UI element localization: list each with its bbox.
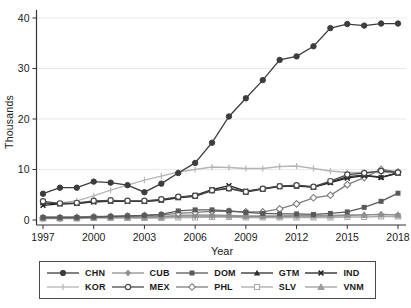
marker-square-filled [74,215,79,220]
marker-square-filled [396,191,401,196]
marker-square-filled [362,205,367,210]
marker-square-filled [379,199,384,204]
legend-label-SLV: SLV [279,282,296,292]
legend-label-GTM: GTM [279,268,300,278]
marker-circle-filled [192,160,197,165]
marker-circle-open [74,200,79,205]
marker-diamond-open [276,206,283,213]
marker-circle-open [362,170,367,175]
y-tick-label-30: 30 [18,62,30,74]
marker-circle-open [125,198,130,203]
marker-circle-filled [361,23,366,28]
marker-circle-filled [311,44,316,49]
marker-circle-filled [378,21,383,26]
marker-circle-filled [108,180,113,185]
marker-square-filled [243,210,248,215]
legend-label-VNM: VNM [343,282,364,292]
x-tick-label-2006: 2006 [183,231,207,243]
marker-diamond-filled [124,270,130,276]
y-tick-label-40: 40 [18,12,30,24]
marker-square-filled [345,209,350,214]
marker-circle-open [40,199,45,204]
marker-circle-filled [277,57,282,62]
marker-circle-filled [176,170,181,175]
legend-key-DOM [175,268,209,278]
marker-circle-filled [159,181,164,186]
series-line-CHN [43,24,398,194]
marker-circle-filled [60,270,65,275]
legend-item-CUB: CUB [111,268,176,278]
marker-circle-filled [345,21,350,26]
marker-circle-filled [74,185,79,190]
legend-item-VNM: VNM [304,282,369,292]
legend-item-CHN: CHN [46,268,111,278]
marker-circle-open [345,172,350,177]
marker-square-filled [311,212,316,217]
marker-square-filled [91,214,96,219]
y-tick-label-10: 10 [18,163,30,175]
marker-circle-filled [91,179,96,184]
marker-square-filled [190,271,195,276]
legend-label-DOM: DOM [214,268,236,278]
marker-circle-filled [125,182,130,187]
x-tick-label-1997: 1997 [31,231,55,243]
marker-circle-open [176,194,181,199]
marker-circle-open [159,197,164,202]
marker-square-filled [193,207,198,212]
legend-item-GTM: GTM [240,268,305,278]
marker-square-filled [159,212,164,217]
marker-circle-open [294,183,299,188]
legend-item-IND: IND [304,268,369,278]
legend-item-DOM: DOM [175,268,240,278]
marker-circle-filled [40,191,45,196]
marker-circle-filled [260,77,265,82]
x-tick-label-2009: 2009 [234,231,258,243]
marker-circle-filled [243,96,248,101]
marker-circle-open [125,284,130,289]
marker-square-filled [125,213,130,218]
series-line-DOM [43,193,398,217]
legend-key-IND [304,268,338,278]
marker-circle-filled [294,54,299,59]
legend-item-PHL: PHL [175,282,240,292]
marker-circle-open [57,201,62,206]
legend-key-VNM [304,282,338,292]
x-tick-label-2012: 2012 [285,231,309,243]
marker-square-filled [108,214,113,219]
marker-circle-open [226,186,231,191]
x-tick-label-2015: 2015 [336,231,360,243]
y-axis-title: Thousands [3,95,15,149]
marker-circle-filled [57,185,62,190]
plot-area: 0102030401997200020032006200920122015201… [0,0,411,256]
marker-square-filled [176,208,181,213]
marker-circle-open [142,198,147,203]
marker-circle-open [260,186,265,191]
marker-circle-filled [226,114,231,119]
legend-key-SLV [240,282,274,292]
legend-label-CUB: CUB [150,268,170,278]
legend-label-IND: IND [343,268,359,278]
marker-circle-open [328,179,333,184]
marker-square-filled [328,211,333,216]
marker-diamond-open [293,201,300,208]
legend-key-KOR [46,282,80,292]
marker-diamond-open [189,284,196,291]
legend-label-PHL: PHL [214,282,233,292]
marker-square-filled [277,211,282,216]
legend-row-2: KORMEXPHLSLVVNM [46,282,369,292]
marker-square-filled [260,211,265,216]
x-tick-label-2018: 2018 [386,231,410,243]
marker-square-filled [210,207,215,212]
legend-key-CHN [46,268,80,278]
legend-row-1: CHNCUBDOMGTMIND [46,268,369,278]
marker-diamond-open [344,181,351,188]
marker-circle-open [395,170,400,175]
marker-circle-filled [142,190,147,195]
marker-circle-open [243,189,248,194]
marker-circle-open [193,193,198,198]
marker-circle-filled [209,140,214,145]
marker-square-open [254,285,259,290]
marker-circle-filled [328,25,333,30]
legend-key-MEX [111,282,145,292]
marker-square-filled [41,215,46,220]
